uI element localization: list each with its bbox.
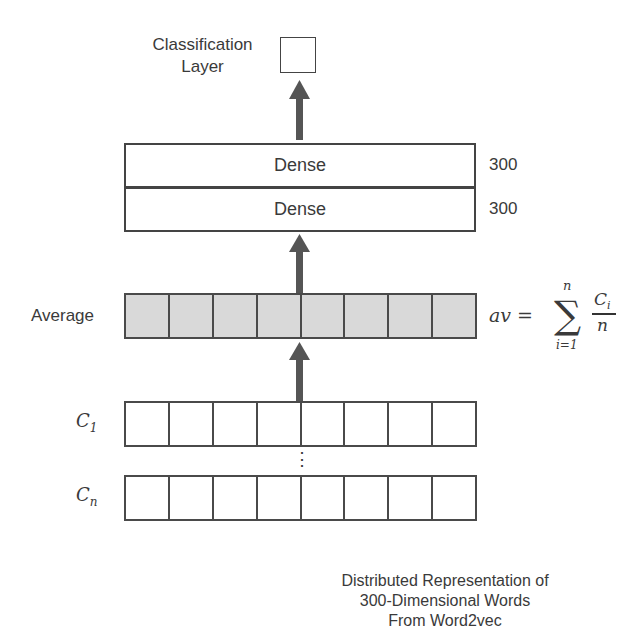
label-line: Classification [120,34,285,56]
dense-size-2: 300 [489,199,517,219]
label-line: Layer [120,56,285,78]
caption-line: 300-Dimensional Words [280,591,610,611]
caption: Distributed Representation of 300-Dimens… [280,571,610,631]
caption-line: Distributed Representation of [280,571,610,591]
classification-layer-label: Classification Layer [120,34,285,78]
dense-size-1: 300 [489,155,517,175]
dense-layer-1: Dense [124,143,476,188]
formula-lhs: av = [489,304,533,326]
dense-label: Dense [274,155,326,176]
input-vector-cn [124,475,477,521]
sigma-icon: ∑ [554,296,581,334]
dense-label: Dense [274,199,326,220]
fraction-denominator: n [597,315,608,335]
classification-layer-box [280,37,316,73]
average-vector [124,293,477,339]
ellipsis: ⋮ [293,448,311,470]
input-c1-label: C1 [76,410,97,435]
sum-upper: n [563,278,571,293]
input-vector-c1 [124,401,477,447]
dense-layer-2: Dense [124,187,476,232]
input-cn-label: Cn [76,484,98,509]
average-label: Average [31,306,94,326]
sum-lower: i=1 [556,338,578,352]
fraction-numerator: Ci [594,289,611,312]
arrow-head [289,80,310,99]
arrow-shaft [296,97,303,140]
caption-line: From Word2vec [280,611,610,631]
